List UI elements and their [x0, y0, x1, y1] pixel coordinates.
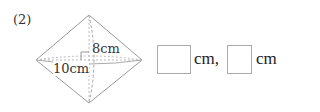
height-label: 8cm [92, 41, 120, 56]
answer-unit-1: cm, [194, 49, 219, 69]
width-label: 10cm [53, 61, 89, 76]
answer-box-2[interactable] [227, 45, 252, 74]
answer-unit-2: cm [256, 49, 277, 69]
answer-box-1[interactable] [157, 45, 191, 74]
